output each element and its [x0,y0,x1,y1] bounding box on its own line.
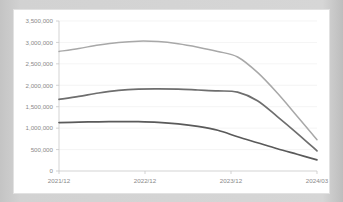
line-chart: 0500,0001,000,0001,500,0002,000,0002,500… [14,10,331,195]
series-line-3 [59,122,317,160]
x-tick-label: 2024/03 [306,177,329,184]
y-tick-label: 3,500,000 [25,17,53,24]
y-tick-label: 2,000,000 [25,82,53,89]
series-line-2 [59,89,317,151]
chart-card: 0500,0001,000,0001,500,0002,000,0002,500… [13,9,330,194]
axis-lines [56,21,317,174]
y-tick-label: 1,500,000 [25,103,53,110]
x-tick-label: 2023/12 [220,177,243,184]
x-axis-tick-labels: 2021/122022/122023/122024/03 [48,177,329,184]
x-tick-label: 2021/12 [48,177,71,184]
y-tick-label: 500,000 [31,146,54,153]
gridlines [59,21,317,150]
y-tick-label: 1,000,000 [25,124,53,131]
chart-svg: 0500,0001,000,0001,500,0002,000,0002,500… [14,10,331,195]
y-tick-label: 3,000,000 [25,39,53,46]
y-tick-label: 0 [50,167,54,174]
x-tick-label: 2022/12 [134,177,157,184]
series-layer [59,41,317,160]
screenshot-root: 0500,0001,000,0001,500,0002,000,0002,500… [0,0,343,202]
y-axis-tick-labels: 0500,0001,000,0001,500,0002,000,0002,500… [25,17,53,174]
y-tick-label: 2,500,000 [25,60,53,67]
